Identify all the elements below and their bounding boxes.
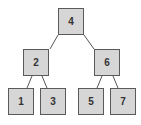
- tree-node-4: 4: [58, 8, 84, 35]
- edge-4-6: [84, 35, 94, 49]
- edge-6-5: [97, 76, 102, 88]
- node-label: 6: [104, 57, 110, 68]
- node-label: 5: [88, 96, 94, 107]
- edge-6-7: [113, 76, 118, 88]
- edge-2-1: [27, 76, 32, 88]
- tree-node-3: 3: [40, 88, 66, 115]
- node-label: 2: [33, 57, 39, 68]
- node-label: 4: [68, 16, 74, 27]
- node-label: 3: [50, 96, 56, 107]
- edge-2-3: [42, 76, 47, 88]
- edge-4-2: [50, 35, 58, 49]
- node-label: 1: [18, 96, 24, 107]
- tree-node-2: 2: [23, 49, 49, 76]
- node-label: 7: [120, 96, 126, 107]
- tree-node-6: 6: [94, 49, 120, 76]
- tree-node-5: 5: [78, 88, 104, 115]
- tree-node-1: 1: [8, 88, 34, 115]
- tree-node-7: 7: [110, 88, 136, 115]
